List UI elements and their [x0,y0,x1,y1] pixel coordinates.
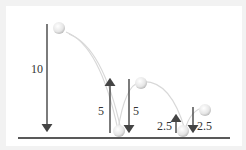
ball-bounce-2 [177,125,189,137]
label-rise-2-5: 2.5 [157,120,172,132]
ball-start [53,22,65,34]
ball-peak-1 [135,77,147,89]
label-drop-10: 10 [31,63,43,75]
ball-bounce-1 [113,125,125,137]
label-drop-2-5: 2.5 [197,120,212,132]
label-drop-5: 5 [133,105,139,117]
label-rise-5: 5 [98,105,104,117]
ball-peak-2 [199,104,211,116]
